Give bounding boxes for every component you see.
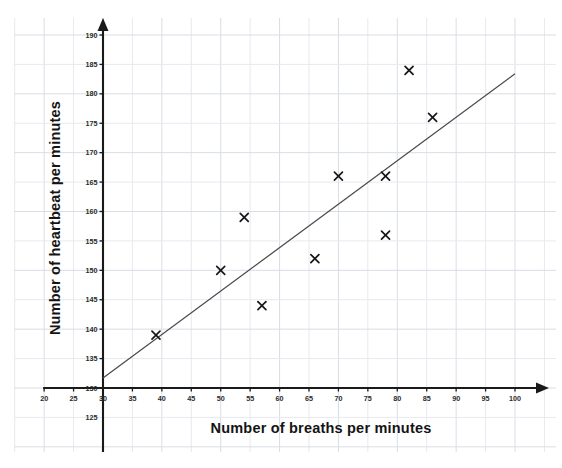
y-tick-label: 185 (86, 60, 98, 69)
y-tick-label: 180 (86, 89, 98, 98)
y-tick-label: 175 (86, 119, 98, 128)
x-tick-label: 20 (40, 394, 48, 403)
x-tick-label: 60 (276, 394, 284, 403)
x-tick-label: 95 (482, 394, 490, 403)
plot-canvas: 2025303540455055606570758085909510012513… (0, 0, 562, 468)
x-tick-label: 80 (393, 394, 401, 403)
x-tick-label: 85 (423, 394, 431, 403)
x-tick-label: 90 (452, 394, 460, 403)
x-tick-label: 25 (70, 394, 78, 403)
y-axis-title: Number of heartbeat per minutes (47, 101, 63, 335)
y-tick-label: 135 (86, 354, 98, 363)
y-tick-label: 145 (86, 295, 98, 304)
scatter-plot-figure: 2025303540455055606570758085909510012513… (0, 0, 562, 468)
x-axis-title: Number of breaths per minutes (211, 420, 432, 436)
x-tick-label: 50 (217, 394, 225, 403)
x-tick-label: 75 (364, 394, 372, 403)
y-tick-label: 160 (86, 207, 98, 216)
y-tick-label: 165 (86, 178, 98, 187)
y-tick-label: 170 (86, 148, 98, 157)
x-tick-label: 45 (187, 394, 195, 403)
y-tick-label: 130 (86, 384, 98, 393)
x-tick-label: 65 (305, 394, 313, 403)
x-tick-label: 40 (158, 394, 166, 403)
x-tick-label: 55 (246, 394, 254, 403)
x-tick-label: 30 (99, 394, 107, 403)
y-tick-label: 140 (86, 325, 98, 334)
x-tick-label: 35 (128, 394, 136, 403)
x-tick-label: 70 (334, 394, 342, 403)
y-tick-label: 125 (86, 413, 98, 422)
y-tick-label: 190 (86, 31, 98, 40)
y-tick-label: 155 (86, 237, 98, 246)
x-tick-label: 100 (509, 394, 521, 403)
y-tick-label: 150 (86, 266, 98, 275)
